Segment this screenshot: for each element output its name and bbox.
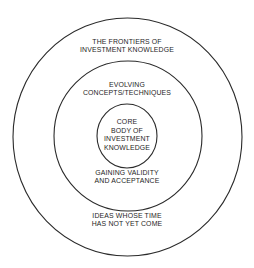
middle-ring-top-label: EVOLVING CONCEPTS/TECHNIQUES xyxy=(5,81,249,98)
middle-top-line-2: CONCEPTS/TECHNIQUES xyxy=(5,89,249,98)
outer-top-line-2: INVESTMENT KNOWLEDGE xyxy=(5,46,249,55)
middle-ring-bottom-label: GAINING VALIDITY AND ACCEPTANCE xyxy=(5,169,249,186)
middle-bottom-line-2: AND ACCEPTANCE xyxy=(5,177,249,186)
inner-ring-center-label: CORE BODY OF INVESTMENT KNOWLEDGE xyxy=(5,118,249,152)
outer-bottom-line-2: HAS NOT YET COME xyxy=(5,220,249,229)
inner-line-4: KNOWLEDGE xyxy=(5,144,249,153)
outer-ring-top-label: THE FRONTIERS OF INVESTMENT KNOWLEDGE xyxy=(5,38,249,55)
outer-ring-bottom-label: IDEAS WHOSE TIME HAS NOT YET COME xyxy=(5,212,249,229)
